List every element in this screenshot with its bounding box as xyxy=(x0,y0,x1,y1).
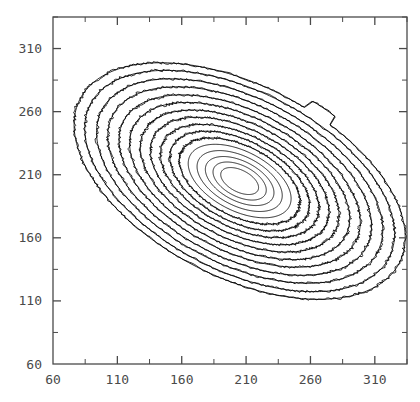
xtick-label-210: 210 xyxy=(234,372,257,387)
xtick-label-310: 310 xyxy=(363,372,386,387)
plot-canvas: 6011016021026031060110160210260310 xyxy=(0,0,420,402)
ytick-label-210: 210 xyxy=(19,167,42,182)
ytick-label-160: 160 xyxy=(19,230,42,245)
ytick-label-260: 260 xyxy=(19,104,42,119)
xtick-label-160: 160 xyxy=(170,372,193,387)
xtick-label-60: 60 xyxy=(45,372,61,387)
xtick-label-260: 260 xyxy=(299,372,322,387)
ytick-label-310: 310 xyxy=(19,41,42,56)
xtick-label-110: 110 xyxy=(106,372,129,387)
ytick-label-60: 60 xyxy=(26,357,42,372)
ytick-label-110: 110 xyxy=(19,293,42,308)
contour-plot-figure: 6011016021026031060110160210260310 xyxy=(0,0,420,402)
